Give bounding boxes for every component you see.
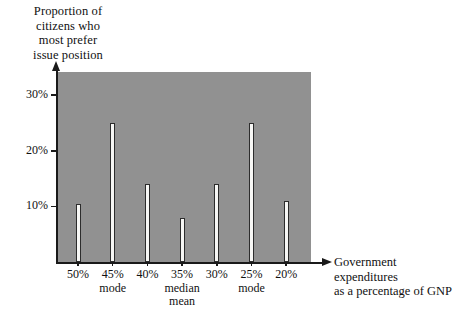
x-axis-annotation: median mean bbox=[154, 282, 210, 308]
y-axis-tick bbox=[51, 94, 58, 96]
x-axis-tick-label: 20% bbox=[263, 268, 309, 281]
y-axis-caption: Proportion of citizens who most prefer i… bbox=[8, 4, 128, 62]
y-axis-arrowhead-icon bbox=[52, 61, 60, 71]
x-axis-annotation: mode bbox=[85, 282, 141, 295]
bar bbox=[145, 184, 150, 262]
chart-figure: Proportion of citizens who most prefer i… bbox=[0, 0, 464, 318]
y-axis-tick-label-text: 30% bbox=[6, 88, 48, 100]
x-axis-arrowhead-icon bbox=[322, 258, 332, 266]
y-axis-tick bbox=[51, 150, 58, 152]
y-axis-line bbox=[56, 70, 58, 263]
bar bbox=[180, 218, 185, 262]
bar bbox=[76, 204, 81, 262]
bar bbox=[249, 123, 254, 262]
bar bbox=[284, 201, 289, 262]
x-axis-line bbox=[56, 262, 324, 264]
y-axis-tick-label-text: 10% bbox=[6, 199, 48, 211]
y-axis-tick-label-text: 20% bbox=[6, 144, 48, 156]
bar bbox=[214, 184, 219, 262]
y-axis-tick bbox=[51, 206, 58, 208]
x-axis-caption: Government expenditures as a percentage … bbox=[334, 255, 462, 299]
bar bbox=[110, 123, 115, 262]
x-axis-annotation: mode bbox=[224, 282, 280, 295]
